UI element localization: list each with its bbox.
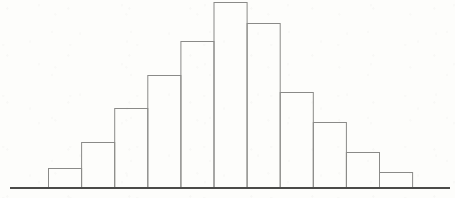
histogram-figure xyxy=(0,0,455,198)
histogram-bar xyxy=(49,169,82,189)
histogram-bar xyxy=(380,173,413,189)
histogram-bar xyxy=(280,93,313,189)
histogram-bar xyxy=(115,109,148,189)
histogram-bar xyxy=(181,42,214,189)
histogram-bar xyxy=(82,143,115,189)
histogram-bar xyxy=(313,123,346,189)
histogram-bar xyxy=(247,24,280,189)
histogram-bars xyxy=(49,3,413,189)
histogram-plot xyxy=(0,0,455,198)
histogram-bar xyxy=(148,76,181,189)
histogram-bar xyxy=(346,153,379,189)
histogram-bar xyxy=(214,3,247,189)
